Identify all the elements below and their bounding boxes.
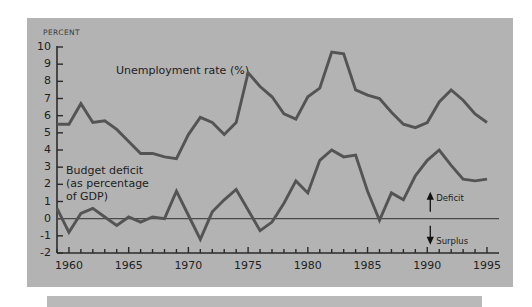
figure-root: PERCENT 109876543210-1-2 196019651970197… (0, 0, 532, 307)
series-line-unemployment-rate (57, 52, 487, 158)
chart-plot-area (0, 0, 532, 307)
down-arrow-icon (427, 237, 434, 245)
up-arrow-icon (427, 192, 434, 200)
series-line-budget-deficit (57, 150, 487, 239)
